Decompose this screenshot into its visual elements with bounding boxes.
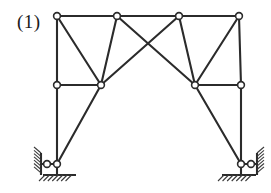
truss-member-right-outer-diagonal [195, 16, 239, 85]
figure-root: (1) [0, 0, 271, 193]
nodes-layer [44, 13, 255, 168]
joint-top-left-node [54, 13, 61, 20]
joint-mid-left-node [54, 82, 61, 89]
truss-member-right-upper-post [239, 16, 241, 85]
truss-member-left-lower-brace [57, 85, 101, 164]
joint-right-support-node [238, 161, 245, 168]
left-support-wall-hatch [34, 147, 41, 153]
truss-diagram [0, 0, 271, 193]
truss-member-cross-diagonal-right-to-left [101, 16, 179, 85]
joint-left-apex-node [98, 82, 105, 89]
supports-layer [34, 147, 264, 181]
truss-member-cross-diagonal-left-to-right [117, 16, 195, 85]
truss-member-right-lower-brace [195, 85, 241, 164]
truss-member-left-inner-diagonal [101, 16, 117, 85]
truss-member-right-inner-diagonal [179, 16, 195, 85]
joint-top-inner-right-node [176, 13, 183, 20]
truss-member-left-outer-diagonal [57, 16, 101, 85]
right-support-wall-pin [248, 161, 255, 168]
joint-mid-right-node [238, 82, 245, 89]
joint-top-inner-left-node [114, 13, 121, 20]
right-support-wall-hatch [257, 147, 264, 153]
joint-right-apex-node [192, 82, 199, 89]
joint-top-right-node [236, 13, 243, 20]
left-support-wall-pin [44, 161, 51, 168]
joint-left-support-node [54, 161, 61, 168]
members-layer [57, 16, 241, 164]
